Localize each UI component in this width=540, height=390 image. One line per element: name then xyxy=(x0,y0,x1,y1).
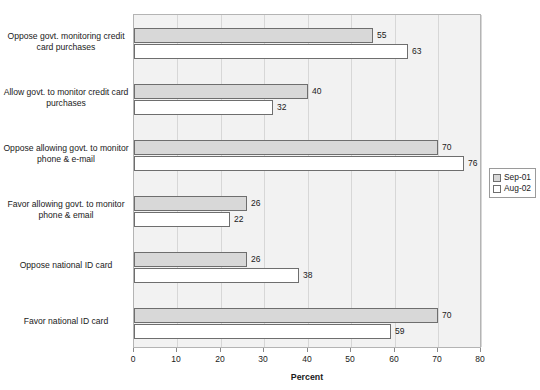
category-label-line: Favor national ID card xyxy=(3,316,129,327)
xtick-label-40: 40 xyxy=(292,354,322,364)
bar-aug02[interactable] xyxy=(134,212,230,227)
category-label-line: Oppose govt. monitoring credit xyxy=(3,31,129,42)
x-axis-title: Percent xyxy=(133,372,481,382)
bar-aug02[interactable] xyxy=(134,156,464,171)
bar-group: 40 32 xyxy=(134,71,480,127)
bar-chart: 55 63 40 32 70 76 26 22 26 xyxy=(0,0,540,390)
xtick-label-20: 20 xyxy=(205,354,235,364)
bar-value: 38 xyxy=(299,268,312,283)
bar-value: 70 xyxy=(438,140,451,155)
category-label-4: Oppose national ID card xyxy=(3,260,129,271)
legend-entry-aug02[interactable]: Aug-02 xyxy=(493,183,531,194)
bar-value: 26 xyxy=(247,252,260,267)
category-label-line: card purchases xyxy=(3,42,129,53)
xtick-mark xyxy=(176,348,177,352)
legend-swatch-icon xyxy=(493,174,501,182)
bar-value: 59 xyxy=(391,324,404,339)
xtick-mark xyxy=(480,348,481,352)
category-label-0: Oppose govt. monitoring credit card purc… xyxy=(3,31,129,52)
xtick-label-80: 80 xyxy=(465,354,495,364)
bar-value: 55 xyxy=(373,28,386,43)
bar-group: 70 59 xyxy=(134,295,480,349)
bar-sep01[interactable] xyxy=(134,28,373,43)
category-label-5: Favor national ID card xyxy=(3,316,129,327)
category-label-line: Favor allowing govt. to monitor xyxy=(3,199,129,210)
category-label-line: Oppose national ID card xyxy=(3,260,129,271)
legend: Sep-01 Aug-02 xyxy=(489,168,536,198)
xtick-label-60: 60 xyxy=(379,354,409,364)
xtick-label-50: 50 xyxy=(335,354,365,364)
xtick-mark xyxy=(133,348,134,352)
xtick-mark xyxy=(437,348,438,352)
bar-sep01[interactable] xyxy=(134,196,247,211)
legend-label: Sep-01 xyxy=(504,172,531,183)
xtick-label-10: 10 xyxy=(161,354,191,364)
bar-aug02[interactable] xyxy=(134,100,273,115)
plot-area: 55 63 40 32 70 76 26 22 26 xyxy=(133,14,481,348)
category-label-line: Oppose allowing govt. to monitor xyxy=(3,143,129,154)
bar-group: 70 76 xyxy=(134,127,480,183)
category-label-line: phone & email xyxy=(3,210,129,221)
bar-sep01[interactable] xyxy=(134,140,438,155)
xtick-mark xyxy=(394,348,395,352)
bar-value: 40 xyxy=(308,84,321,99)
category-label-line: Allow govt. to monitor credit card xyxy=(3,87,129,98)
xtick-mark xyxy=(263,348,264,352)
bar-value: 63 xyxy=(408,44,421,59)
xtick-mark xyxy=(350,348,351,352)
legend-label: Aug-02 xyxy=(504,183,531,194)
bar-value: 26 xyxy=(247,196,260,211)
category-label-line: phone & e-mail xyxy=(3,154,129,165)
xtick-mark xyxy=(307,348,308,352)
category-label-1: Allow govt. to monitor credit card purch… xyxy=(3,87,129,108)
bar-group: 55 63 xyxy=(134,15,480,71)
bar-value: 32 xyxy=(273,100,286,115)
bar-sep01[interactable] xyxy=(134,308,438,323)
category-label-3: Favor allowing govt. to monitor phone & … xyxy=(3,199,129,220)
bar-aug02[interactable] xyxy=(134,44,408,59)
xtick-label-70: 70 xyxy=(422,354,452,364)
bar-value: 70 xyxy=(438,308,451,323)
xtick-label-30: 30 xyxy=(248,354,278,364)
category-label-2: Oppose allowing govt. to monitor phone &… xyxy=(3,143,129,164)
xtick-label-0: 0 xyxy=(118,354,148,364)
legend-entry-sep01[interactable]: Sep-01 xyxy=(493,172,531,183)
bar-aug02[interactable] xyxy=(134,268,299,283)
bar-aug02[interactable] xyxy=(134,324,391,339)
bar-sep01[interactable] xyxy=(134,252,247,267)
bar-group: 26 38 xyxy=(134,239,480,295)
bar-sep01[interactable] xyxy=(134,84,308,99)
gridline-80 xyxy=(481,15,482,347)
xtick-mark xyxy=(220,348,221,352)
bar-value: 22 xyxy=(230,212,243,227)
legend-swatch-icon xyxy=(493,185,501,193)
category-label-line: purchases xyxy=(3,98,129,109)
bar-group: 26 22 xyxy=(134,183,480,239)
bar-value: 76 xyxy=(464,156,477,171)
